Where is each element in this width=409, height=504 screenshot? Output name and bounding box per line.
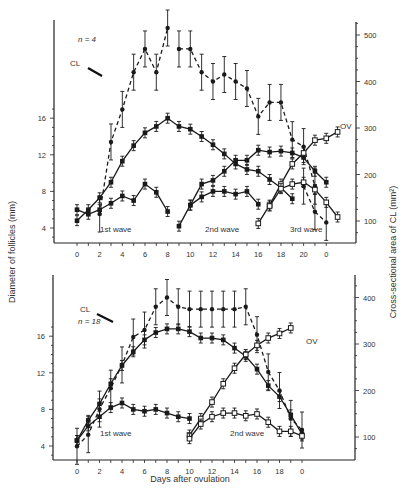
filled-circle-marker xyxy=(109,140,113,144)
filled-circle-marker xyxy=(222,72,226,76)
wave-label: 3rd wave xyxy=(290,225,323,234)
filled-circle-marker xyxy=(245,86,249,90)
filled-square-marker xyxy=(97,414,102,419)
filled-square-marker xyxy=(290,196,295,201)
filled-square-marker xyxy=(120,194,125,199)
filled-circle-marker xyxy=(199,70,203,74)
x-tick-label: 16 xyxy=(254,250,262,259)
filled-square-marker xyxy=(97,196,102,201)
open-square-marker xyxy=(301,180,306,185)
x-tick-label: 6 xyxy=(142,467,146,476)
open-square-marker xyxy=(277,429,282,434)
filled-circle-marker xyxy=(165,26,169,30)
sample-size-label: n = 18 xyxy=(78,317,101,326)
cl-arrow-icon xyxy=(88,68,102,76)
open-square-marker xyxy=(335,215,340,220)
series-line xyxy=(190,328,291,435)
filled-circle-marker xyxy=(165,295,169,299)
filled-square-marker xyxy=(324,180,329,185)
open-square-marker xyxy=(256,221,261,226)
x-tick-label: 0 xyxy=(300,467,304,476)
filled-square-marker xyxy=(131,407,136,412)
filled-square-marker xyxy=(176,414,181,419)
filled-circle-marker xyxy=(176,305,180,309)
open-square-marker xyxy=(243,352,248,357)
filled-square-marker xyxy=(211,189,216,194)
filled-square-marker xyxy=(279,149,284,154)
filled-square-marker xyxy=(143,182,148,187)
filled-square-marker xyxy=(290,151,295,156)
filled-square-marker xyxy=(131,143,136,148)
filled-square-marker xyxy=(211,178,216,183)
x-tick-label: 0 xyxy=(324,250,328,259)
filled-square-marker xyxy=(108,381,113,386)
filled-square-marker xyxy=(142,409,147,414)
filled-square-marker xyxy=(177,124,182,129)
open-square-marker xyxy=(198,422,203,427)
open-square-marker xyxy=(288,326,293,331)
filled-square-marker xyxy=(187,416,192,421)
open-square-marker xyxy=(313,138,318,143)
open-square-marker xyxy=(255,412,260,417)
filled-circle-marker xyxy=(210,307,214,311)
filled-circle-marker xyxy=(142,328,146,332)
open-square-marker xyxy=(266,420,271,425)
open-square-marker xyxy=(221,411,226,416)
x-tick-label: 2 xyxy=(98,250,102,259)
filled-circle-marker xyxy=(154,305,158,309)
open-square-marker xyxy=(324,200,329,205)
filled-square-marker xyxy=(120,159,125,164)
open-square-marker xyxy=(210,414,215,419)
open-square-marker xyxy=(267,204,272,209)
filled-square-marker xyxy=(153,330,158,335)
filled-square-marker xyxy=(165,116,170,121)
sample-size-label: n = 4 xyxy=(78,35,97,44)
filled-square-marker xyxy=(211,142,216,147)
filled-square-marker xyxy=(97,402,102,407)
x-tick-label: 4 xyxy=(120,467,124,476)
x-tick-label: 18 xyxy=(277,250,285,259)
filled-circle-marker xyxy=(313,210,317,214)
bottom-panel: 0246810121416180481216100200300400n = 18… xyxy=(37,275,376,476)
filled-square-marker xyxy=(97,207,102,212)
ov-label: OV xyxy=(306,337,318,346)
filled-square-marker xyxy=(75,218,80,223)
y-tick-label-left: 4 xyxy=(42,224,46,233)
y-tick-label-left: 12 xyxy=(37,369,45,378)
filled-square-marker xyxy=(199,195,204,200)
filled-circle-marker xyxy=(255,333,259,337)
filled-square-marker xyxy=(165,411,170,416)
x-tick-label: 8 xyxy=(166,250,170,259)
open-square-marker xyxy=(324,136,329,141)
y-tick-label-right: 500 xyxy=(364,31,377,40)
x-axis-label: Days after ovulation xyxy=(150,474,230,484)
x-tick-label: 14 xyxy=(231,250,239,259)
filled-circle-marker xyxy=(120,107,124,111)
x-tick-label: 20 xyxy=(299,250,307,259)
filled-square-marker xyxy=(176,327,181,332)
x-tick-label: 14 xyxy=(230,467,238,476)
filled-square-marker xyxy=(245,189,250,194)
filled-circle-marker xyxy=(232,307,236,311)
filled-circle-marker xyxy=(324,220,328,224)
y-tick-label-right: 100 xyxy=(363,433,376,442)
y-tick-label-left: 16 xyxy=(37,332,45,341)
filled-square-marker xyxy=(177,224,182,229)
open-square-marker xyxy=(255,343,260,348)
open-square-marker xyxy=(301,151,306,156)
x-tick-label: 0 xyxy=(75,250,79,259)
wave-label: 1st wave xyxy=(100,225,132,234)
filled-square-marker xyxy=(120,363,125,368)
filled-square-marker xyxy=(75,207,80,212)
filled-square-marker xyxy=(222,169,227,174)
y-tick-label-right: 300 xyxy=(364,124,377,133)
filled-circle-marker xyxy=(266,370,270,374)
filled-square-marker xyxy=(143,131,148,136)
x-tick-label: 0 xyxy=(75,467,79,476)
filled-square-marker xyxy=(199,134,204,139)
filled-square-marker xyxy=(86,424,91,429)
open-square-marker xyxy=(232,366,237,371)
wave-label: 2nd wave xyxy=(205,225,240,234)
filled-circle-marker xyxy=(267,100,271,104)
filled-square-marker xyxy=(131,198,136,203)
